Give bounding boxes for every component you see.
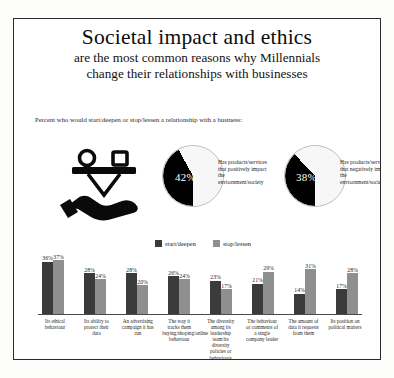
bar-group: 23%17% <box>206 251 236 314</box>
category-label: The amount of data it requests from them <box>287 318 321 360</box>
category-label: Its ability to protect their data <box>79 318 113 360</box>
page-title: Societal impact and ethics <box>14 25 380 50</box>
bar-value-label: 36% <box>42 255 52 262</box>
category-label: Its ethical behaviour <box>38 318 72 360</box>
pie-percent-label: 38% <box>296 171 317 183</box>
bar-stop-lessen: 37% <box>53 260 64 314</box>
title-block: Societal impact and ethics are the most … <box>14 19 380 81</box>
bar-start-deepen: 28% <box>126 273 137 314</box>
bar-start-deepen: 17% <box>336 289 347 314</box>
bar-value-label: 24% <box>95 273 105 280</box>
bar-start-deepen: 26% <box>168 276 179 314</box>
bar-value-label: 24% <box>179 273 189 280</box>
bar-value-label: 17% <box>221 283 231 290</box>
bar-value-label: 14% <box>294 287 304 294</box>
bar-stop-lessen: 24% <box>179 279 190 314</box>
bar-stop-lessen: 17% <box>221 289 232 314</box>
chart-axis-line <box>38 314 362 315</box>
bar-stop-lessen: 29% <box>263 272 274 314</box>
bar-value-label: 31% <box>305 263 315 270</box>
bar-value-label: 23% <box>210 274 220 281</box>
bar-group: 14%31% <box>290 251 320 314</box>
pie-caption: Has products/services that negatively im… <box>340 159 381 185</box>
category-label: The way it tracks them buying/shoping/on… <box>162 318 196 360</box>
bar-chart: 36%37%28%24%28%20%26%24%23%17%21%29%14%3… <box>38 251 362 315</box>
chart-subheading: Percent who would start/deepen or stop/l… <box>35 116 242 123</box>
legend-swatch-icon <box>155 240 162 247</box>
bar-value-label: 37% <box>53 254 63 261</box>
bar-value-label: 20% <box>137 279 147 286</box>
bar-group: 17%28% <box>332 251 362 314</box>
bar-value-label: 26% <box>168 270 178 277</box>
page-subtitle-line-2: change their relationships with business… <box>14 66 380 82</box>
bar-start-deepen: 21% <box>252 284 263 314</box>
pie-percent-label: 42% <box>175 171 196 183</box>
bar-groups: 36%37%28%24%28%20%26%24%23%17%21%29%14%3… <box>38 251 362 314</box>
legend-swatch-icon <box>213 240 220 247</box>
legend-item-start-deepen: start/deepen <box>155 240 196 247</box>
bar-start-deepen: 28% <box>84 273 95 314</box>
bar-stop-lessen: 24% <box>95 279 106 314</box>
legend-label: start/deepen <box>165 240 196 247</box>
bar-start-deepen: 23% <box>210 281 221 314</box>
legend-item-stop-lessen: stop/lessen <box>213 240 251 247</box>
bar-group: 28%20% <box>122 251 152 314</box>
chart-legend: start/deepen stop/lessen <box>155 240 251 247</box>
category-label: An advertising campaign it has run <box>121 318 155 360</box>
hand-holding-balance-scale-icon <box>58 143 150 225</box>
bar-group: 36%37% <box>38 251 68 314</box>
bar-value-label: 21% <box>252 277 262 284</box>
pie-chart-positive-impact: 42% Has products/services that positivel… <box>162 145 224 207</box>
bar-value-label: 28% <box>84 267 94 274</box>
bar-group: 21%29% <box>248 251 278 314</box>
pie-caption: Has products/services that positively im… <box>218 159 270 185</box>
bar-stop-lessen: 28% <box>347 273 358 314</box>
bar-group: 28%24% <box>80 251 110 314</box>
page-subtitle-line-1: are the most common reasons why Millenni… <box>14 50 380 66</box>
category-label: The behaviour or comments of a single co… <box>245 318 279 360</box>
infographic-page: Societal impact and ethics are the most … <box>0 0 394 378</box>
bar-stop-lessen: 20% <box>137 285 148 314</box>
bar-value-label: 28% <box>347 267 357 274</box>
infographic-frame: Societal impact and ethics are the most … <box>13 18 381 360</box>
bar-start-deepen: 36% <box>42 262 53 314</box>
category-label: The diversity among its leadership team/… <box>204 318 238 360</box>
category-labels: Its ethical behaviourIts ability to prot… <box>38 318 362 360</box>
bar-group: 26%24% <box>164 251 194 314</box>
bar-value-label: 29% <box>263 265 273 272</box>
bar-value-label: 17% <box>336 283 346 290</box>
bar-start-deepen: 14% <box>294 294 305 314</box>
legend-label: stop/lessen <box>223 240 251 247</box>
bar-value-label: 28% <box>126 267 136 274</box>
pie-chart-negative-impact: 38% Has products/services that negativel… <box>284 145 346 207</box>
bar-stop-lessen: 31% <box>305 269 316 314</box>
category-label: Its position on political matters <box>328 318 362 360</box>
